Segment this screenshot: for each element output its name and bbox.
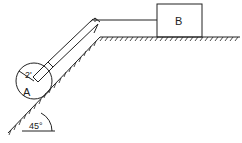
- angle-label: 45°: [29, 121, 43, 131]
- pulley-pin: [94, 19, 96, 21]
- block-b-label: B: [175, 15, 182, 27]
- rope-incline-upper: [48, 19, 93, 62]
- cylinder-a-label: A: [23, 86, 31, 98]
- floor-hatching: [100, 37, 238, 41]
- radius-label: 2': [25, 70, 32, 80]
- angle-arc: [41, 113, 52, 131]
- diagram-canvas: B A 2' 45°: [0, 0, 242, 143]
